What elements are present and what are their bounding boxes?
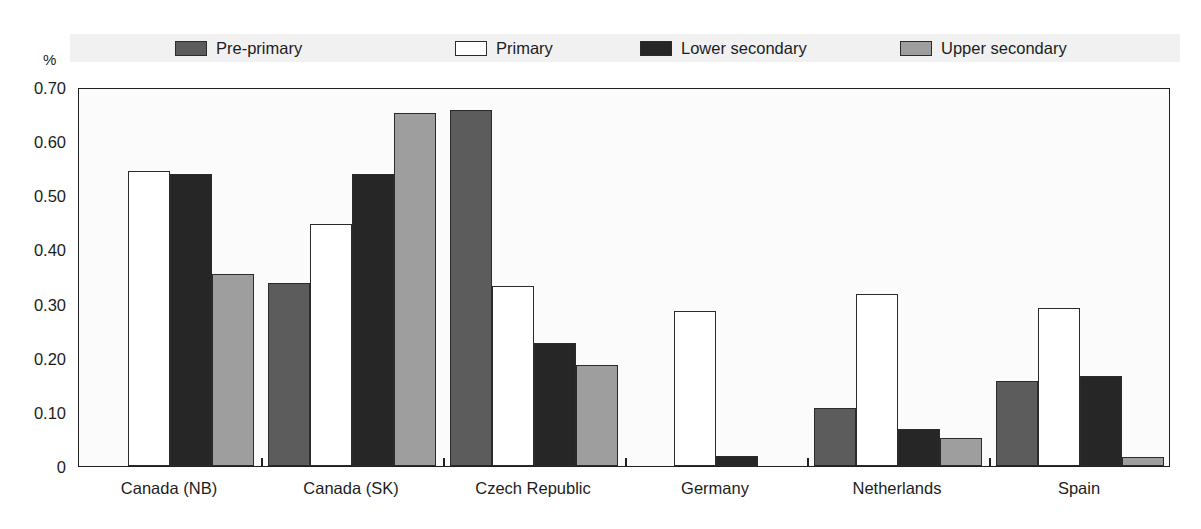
y-axis-tick-label: 0: [0, 458, 66, 477]
bar-group: [450, 89, 618, 466]
legend-label: Lower secondary: [681, 39, 807, 57]
x-axis-tick-label: Czech Republic: [475, 479, 591, 498]
bar-primary: [674, 311, 716, 466]
bar-group: [268, 89, 436, 466]
legend-label: Upper secondary: [941, 39, 1067, 57]
y-axis-tick-label: 0.70: [0, 79, 66, 98]
plot-area: [78, 88, 1170, 467]
bar-upper-secondary: [394, 113, 436, 466]
x-axis-tick-label: Canada (NB): [121, 479, 217, 498]
x-axis-tick-mark: [625, 458, 627, 466]
legend-item-lower-secondary: Lower secondary: [640, 38, 807, 58]
bar-group-bars: [996, 89, 1164, 466]
legend-item-pre-primary: Pre-primary: [175, 38, 302, 58]
bar-primary: [492, 286, 534, 466]
bar-group-bars: [86, 89, 254, 466]
bar-lower-secondary: [534, 343, 576, 466]
bar-lower-secondary: [352, 174, 394, 466]
legend-swatch-icon: [640, 41, 672, 56]
x-axis-tick-label: Spain: [1058, 479, 1100, 498]
bar-group: [86, 89, 254, 466]
bar-group: [632, 89, 800, 466]
legend-label: Primary: [496, 39, 553, 57]
bar-pre-primary: [814, 408, 856, 466]
y-axis-tick-label: 0.60: [0, 133, 66, 152]
legend-label: Pre-primary: [216, 39, 302, 57]
x-axis-tick-mark: [989, 458, 991, 466]
bar-upper-secondary: [212, 274, 254, 466]
bar-primary: [856, 294, 898, 466]
legend-swatch-icon: [455, 41, 487, 56]
bar-group: [814, 89, 982, 466]
bar-pre-primary: [996, 381, 1038, 466]
y-axis-tick-label: 0.50: [0, 187, 66, 206]
y-axis-tick-label: 0.40: [0, 241, 66, 260]
y-axis-tick-label: 0.20: [0, 349, 66, 368]
bar-group-bars: [450, 89, 618, 466]
bar-upper-secondary: [940, 438, 982, 466]
x-axis-tick-mark: [261, 458, 263, 466]
chart-figure: Pre-primaryPrimaryLower secondaryUpper s…: [0, 0, 1201, 529]
legend-item-upper-secondary: Upper secondary: [900, 38, 1067, 58]
bar-primary: [128, 171, 170, 466]
x-axis-tick-label: Netherlands: [853, 479, 942, 498]
y-axis-tick-label: 0.30: [0, 295, 66, 314]
bar-group-bars: [268, 89, 436, 466]
x-axis-tick-label: Germany: [681, 479, 749, 498]
bar-primary: [310, 224, 352, 466]
bar-upper-secondary: [1122, 457, 1164, 466]
x-axis-tick-label: Canada (SK): [303, 479, 398, 498]
bar-lower-secondary: [898, 429, 940, 466]
legend-swatch-icon: [175, 41, 207, 56]
bar-group-bars: [632, 89, 800, 466]
x-axis-tick-mark: [807, 458, 809, 466]
bar-lower-secondary: [170, 174, 212, 466]
chart-legend: Pre-primaryPrimaryLower secondaryUpper s…: [70, 34, 1180, 62]
legend-swatch-icon: [900, 41, 932, 56]
y-axis-tick-label: 0.10: [0, 403, 66, 422]
legend-item-primary: Primary: [455, 38, 553, 58]
bar-primary: [1038, 308, 1080, 466]
bar-lower-secondary: [716, 456, 758, 466]
bar-group-bars: [814, 89, 982, 466]
bar-pre-primary: [268, 283, 310, 466]
y-axis-unit-label: %: [43, 51, 56, 68]
bar-lower-secondary: [1080, 376, 1122, 466]
bar-pre-primary: [450, 110, 492, 466]
bar-upper-secondary: [576, 365, 618, 466]
plot-inner: [79, 89, 1169, 466]
bar-group: [996, 89, 1164, 466]
x-axis-tick-mark: [443, 458, 445, 466]
